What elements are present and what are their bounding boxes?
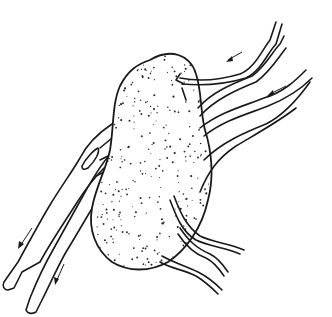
stipple-dot [143, 263, 145, 265]
stipple-dot [132, 180, 133, 181]
stipple-dot [133, 128, 134, 129]
stipple-dot [148, 261, 150, 263]
stipple-dot [118, 190, 120, 192]
stipple-dot [137, 70, 139, 72]
stipple-dot [119, 201, 120, 202]
stipple-dot [172, 256, 173, 257]
stipple-dot [193, 89, 194, 90]
stipple-dot [144, 161, 146, 163]
stipple-dot [146, 245, 148, 247]
stipple-dot [189, 126, 190, 127]
stipple-dot [193, 217, 195, 219]
stipple-dot [141, 69, 142, 70]
stipple-dot [205, 192, 207, 194]
stipple-dot [150, 112, 151, 113]
stipple-dot [182, 245, 184, 247]
stipple-dot [171, 80, 172, 81]
arrow-lower-left-2 [54, 264, 64, 285]
stipple-dot [194, 151, 196, 153]
stipple-dot [122, 189, 123, 190]
stipple-dot [121, 156, 122, 157]
stipple-dot [187, 146, 189, 148]
stipple-dot [125, 189, 127, 191]
stipple-dot [144, 68, 146, 70]
stipple-dot [141, 202, 143, 204]
stipple-dot [118, 216, 119, 217]
stipple-dot [181, 241, 182, 242]
stipple-dot [150, 264, 152, 266]
stipple-dot [178, 111, 180, 113]
stipple-dot [134, 98, 135, 99]
stipple-dot [159, 196, 160, 197]
stipple-dot [153, 67, 155, 69]
stipple-dot [140, 113, 142, 115]
stipple-dot [139, 197, 141, 199]
stipple-dot [198, 129, 200, 131]
stipple-dot [113, 219, 114, 220]
stipple-dot [142, 75, 144, 77]
stipple-dot [100, 190, 102, 192]
stipple-dot [97, 216, 99, 218]
stipple-dot [209, 165, 210, 166]
stipple-dot [111, 156, 113, 158]
stipple-dot [119, 167, 121, 169]
stipple-dot [163, 127, 165, 129]
stipple-dot [165, 124, 166, 125]
stipple-dot [156, 239, 157, 240]
stipple-dot [151, 144, 152, 145]
stipple-dot [171, 66, 173, 68]
stipple-dot [119, 254, 120, 255]
stipple-dot [145, 264, 146, 265]
stipple-dot [135, 211, 137, 213]
stipple-dot [153, 124, 154, 125]
stipple-dot [162, 170, 164, 172]
stipple-dot [178, 182, 179, 183]
stipple-dot [185, 68, 187, 70]
stipple-dot [185, 101, 187, 103]
stipple-dot [160, 208, 162, 210]
stipple-dot [155, 168, 157, 170]
stipple-dot [119, 105, 120, 106]
stipple-dot [164, 55, 166, 57]
stipple-dot [114, 259, 116, 261]
stipple-dot [172, 161, 174, 163]
stipple-dot [120, 219, 121, 220]
stipple-dot [190, 175, 192, 177]
stipple-dot [160, 259, 162, 261]
mid-right-vessels [200, 70, 312, 192]
stipple-dot [126, 231, 128, 233]
stipple-dot [118, 214, 120, 216]
stipple-dot [148, 77, 150, 79]
stipple-dot [102, 214, 103, 215]
stipple-dot [198, 99, 199, 100]
stipple-dot [167, 107, 169, 109]
stipple-dot [195, 218, 197, 220]
stipple-dot [159, 177, 160, 178]
stipple-dot [123, 265, 125, 267]
stipple-dot [153, 108, 155, 110]
stipple-dot [111, 201, 112, 202]
stipple-dot [179, 191, 180, 192]
stipple-dot [140, 170, 141, 171]
stipple-dot [151, 176, 152, 177]
stipple-dot [147, 101, 148, 102]
stipple-dot [186, 215, 188, 217]
stipple-dot [168, 133, 169, 134]
stipple-dot [121, 104, 122, 105]
stipple-dot [150, 106, 151, 107]
stipple-dot [105, 208, 107, 210]
stipple-dot [205, 150, 207, 152]
stipple-dot [197, 157, 199, 159]
stipple-dot [199, 199, 201, 201]
stipple-dot [124, 159, 125, 160]
stipple-dot [183, 193, 185, 195]
stipple-dot [175, 209, 176, 210]
stipple-dot [115, 127, 117, 129]
stipple-dot [115, 189, 116, 190]
stipple-dot [112, 194, 114, 196]
stipple-dot [111, 159, 113, 161]
stipple-dot [130, 84, 132, 86]
stipple-dot [178, 201, 179, 202]
stipple-dot [138, 235, 140, 237]
lower-vessel-3 [162, 256, 222, 290]
